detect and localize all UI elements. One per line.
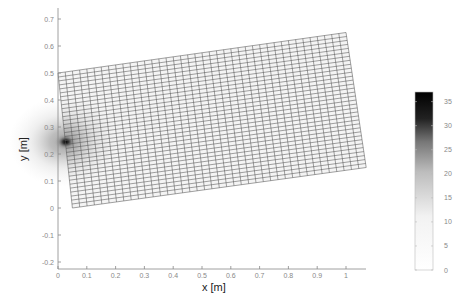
y-tick-label: 0.4: [44, 97, 54, 104]
x-tick-label: 0.5: [197, 272, 207, 279]
y-tick-label: 0.1: [44, 178, 54, 185]
colorbar-tick-label: 0: [444, 267, 448, 274]
colorbar-tick-label: 5: [444, 242, 448, 249]
colorbar-tick-label: 25: [444, 146, 452, 153]
colorbar-tick-label: 30: [444, 122, 452, 129]
colorbar-tick-label: 20: [444, 170, 452, 177]
y-tick-label: 0.6: [44, 43, 54, 50]
y-tick-label: -0.2: [42, 259, 54, 266]
x-tick-label: 0.9: [312, 272, 322, 279]
y-tick-label: 0.7: [44, 16, 54, 23]
x-tick-label: 0.2: [111, 272, 121, 279]
colorbar: 05101520253035: [415, 92, 452, 274]
colorbar-tick-label: 15: [444, 194, 452, 201]
x-tick-label: 0.8: [284, 272, 294, 279]
y-tick-label: -0.1: [42, 232, 54, 239]
y-axis-label: y [m]: [17, 137, 29, 161]
x-tick-label: 1: [344, 272, 348, 279]
x-tick-label: 0.4: [168, 272, 178, 279]
figure: 00.10.20.30.40.50.60.70.80.91-0.2-0.100.…: [0, 0, 473, 308]
colorbar-tick-label: 35: [444, 98, 452, 105]
mesh: [9, 33, 366, 209]
y-tick-label: 0: [50, 205, 54, 212]
x-tick-label: 0.1: [82, 272, 92, 279]
mesh-plot: 00.10.20.30.40.50.60.70.80.91-0.2-0.100.…: [0, 0, 473, 308]
x-tick-label: 0.6: [226, 272, 236, 279]
y-tick-label: 0.3: [44, 124, 54, 131]
x-tick-label: 0.7: [255, 272, 265, 279]
x-tick-label: 0.3: [140, 272, 150, 279]
y-tick-label: 0.5: [44, 70, 54, 77]
x-tick-label: 0: [56, 272, 60, 279]
colorbar-tick-label: 10: [444, 218, 452, 225]
y-tick-label: 0.2: [44, 151, 54, 158]
x-axis-label: x [m]: [202, 281, 226, 293]
